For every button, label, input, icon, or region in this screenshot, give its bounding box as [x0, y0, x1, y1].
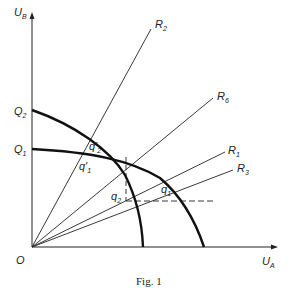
- utility-possibility-diagram: UB UA O Q2 Q1 R2 R6 R1 R3 q'2 q'1 q2 q1 …: [0, 0, 296, 291]
- ray-r2: [32, 29, 151, 247]
- x-axis-arrow-icon: [271, 245, 278, 250]
- curve-q2-label: Q2: [14, 105, 27, 119]
- ray-r3-label: R3: [237, 162, 249, 176]
- point-q1-prime-label: q'1: [79, 160, 91, 174]
- y-axis-arrow-icon: [30, 12, 35, 19]
- ray-r2-label: R2: [155, 18, 167, 32]
- point-q1-label: q1: [161, 183, 171, 197]
- curve-q2: [32, 110, 143, 247]
- curve-q1-label: Q1: [14, 143, 27, 157]
- figure-caption: Fig. 1: [136, 275, 162, 287]
- ray-r6-label: R6: [217, 90, 229, 104]
- point-q2-label: q2: [111, 190, 121, 204]
- x-axis-label: UA: [262, 255, 275, 269]
- y-axis-label: UB: [14, 6, 27, 20]
- origin-label: O: [16, 254, 25, 266]
- ray-r1: [32, 152, 225, 247]
- ray-r1-label: R1: [228, 144, 240, 158]
- ray-r3: [32, 170, 233, 247]
- point-q2-prime-label: q'2: [89, 140, 101, 154]
